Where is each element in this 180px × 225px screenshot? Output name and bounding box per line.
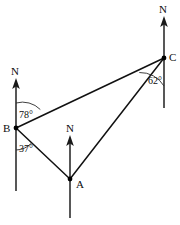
angle-label-62: 62°	[148, 75, 162, 86]
bearing-diagram-svg: N N N B A C 78° 37° 62°	[0, 0, 180, 225]
angle-label-37: 37°	[19, 143, 33, 154]
north-axis-b	[12, 78, 20, 191]
point-label-b: B	[3, 122, 10, 134]
north-label-b: N	[11, 65, 19, 77]
vertex-dot-a	[68, 177, 73, 182]
point-label-a: A	[76, 178, 84, 190]
north-label-a: N	[66, 122, 74, 134]
vertex-dot-c	[162, 56, 167, 61]
segment-b-to-c	[16, 58, 164, 128]
bearing-diagram-figure: N N N B A C 78° 37° 62°	[0, 0, 180, 225]
vertex-dot-b	[14, 126, 19, 131]
angle-label-78: 78°	[19, 109, 33, 120]
point-label-c: C	[169, 51, 176, 63]
north-label-c: N	[159, 3, 167, 15]
